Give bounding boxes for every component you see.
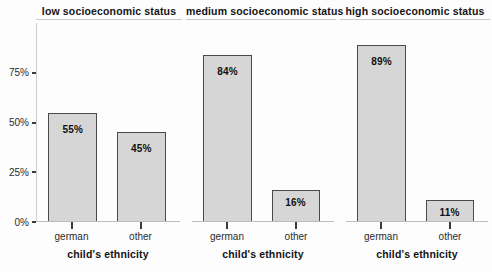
x-tick-mark-german — [226, 222, 228, 229]
bar-group-medium: 84% 16% — [192, 23, 334, 222]
plot-area-low: 55% 45% — [36, 23, 180, 222]
bar-label-medium-other: 16% — [273, 197, 319, 208]
bar-high-other[interactable]: 11% — [426, 200, 474, 222]
bar-label-medium-german: 84% — [204, 66, 250, 77]
x-tick-label-german: german — [32, 231, 112, 242]
bar-slot-other: 16% — [272, 23, 320, 222]
panel-high-ses: high socioeconomic status 89% 11% — [338, 0, 492, 272]
panel-low-ses: low socioeconomic status 0% 25% 50% 75% — [0, 0, 184, 272]
bar-slot-german: 89% — [357, 23, 405, 222]
x-tick-mark-german — [71, 222, 73, 229]
y-tick-label-0: 0% — [15, 216, 32, 227]
bar-low-other[interactable]: 45% — [117, 132, 166, 222]
x-tick-mark-other — [140, 222, 142, 229]
x-tick-mark-other — [295, 222, 297, 229]
plot-area-medium: 84% 16% — [192, 23, 334, 222]
x-tick-mark-other — [449, 222, 451, 229]
x-tick-label-other: other — [101, 231, 181, 242]
x-axis-baseline — [37, 221, 180, 222]
bar-group-low: 55% 45% — [37, 23, 180, 222]
x-axis-title-high: child's ethnicity — [346, 248, 488, 260]
bar-high-german[interactable]: 89% — [357, 45, 405, 222]
x-axis-baseline — [346, 221, 488, 222]
bar-label-high-german: 89% — [358, 56, 404, 67]
panel-medium-ses: medium socioeconomic status 84% 16% — [184, 0, 338, 272]
x-tick-label-german: german — [341, 231, 421, 242]
bar-group-high: 89% 11% — [346, 23, 488, 222]
y-axis: 0% 25% 50% 75% — [0, 23, 36, 222]
panel-title-high: high socioeconomic status — [340, 4, 490, 20]
x-axis-title-low: child's ethnicity — [36, 248, 180, 260]
bar-label-low-other: 45% — [118, 143, 165, 154]
bar-slot-other: 45% — [117, 23, 166, 222]
bar-slot-other: 11% — [426, 23, 474, 222]
faceted-bar-chart: low socioeconomic status 0% 25% 50% 75% — [0, 0, 492, 272]
x-tick-mark-german — [380, 222, 382, 229]
bar-medium-german[interactable]: 84% — [203, 55, 251, 222]
x-tick-label-german: german — [187, 231, 267, 242]
x-tick-label-other: other — [256, 231, 336, 242]
bar-medium-other[interactable]: 16% — [272, 190, 320, 222]
panel-row: low socioeconomic status 0% 25% 50% 75% — [0, 0, 492, 272]
bar-label-low-german: 55% — [49, 124, 96, 135]
y-tick-label-75: 75% — [9, 67, 32, 78]
x-axis-baseline — [192, 221, 334, 222]
panel-title-medium: medium socioeconomic status — [186, 4, 336, 20]
plot-area-high: 89% 11% — [346, 23, 488, 222]
bar-slot-german: 84% — [203, 23, 251, 222]
x-tick-label-other: other — [410, 231, 490, 242]
y-tick-label-25: 25% — [9, 166, 32, 177]
panel-title-low: low socioeconomic status — [36, 4, 182, 20]
y-tick-label-50: 50% — [9, 117, 32, 128]
bar-slot-german: 55% — [48, 23, 97, 222]
bar-low-german[interactable]: 55% — [48, 113, 97, 222]
x-axis-title-medium: child's ethnicity — [192, 248, 334, 260]
bar-label-high-other: 11% — [427, 207, 473, 218]
